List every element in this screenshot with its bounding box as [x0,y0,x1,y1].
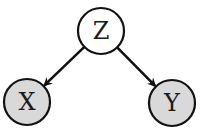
edge-z-to-y [117,47,155,86]
node-y: Y [149,80,195,126]
node-z: Z [78,8,124,54]
node-x: X [4,79,50,125]
causal-diagram: ZXY [0,0,201,133]
node-label: Y [163,89,181,117]
node-label: X [18,88,35,116]
node-label: Z [93,17,110,45]
edge-z-to-x [44,47,84,85]
